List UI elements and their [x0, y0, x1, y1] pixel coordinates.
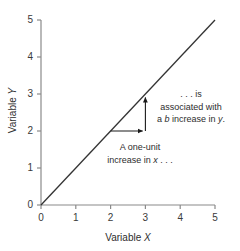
y-tick-label-4: 4 [19, 51, 33, 62]
x-increase-line2-suffix: . . . [158, 155, 173, 165]
y-increase-annotation: . . . is associated with a b increase in… [148, 88, 234, 126]
x-increase-line2: increase in x . . . [92, 154, 188, 167]
x-tick-label-5: 5 [205, 212, 225, 223]
y-axis-title: Variable Y [7, 61, 18, 161]
x-tick-label-0: 0 [31, 212, 51, 223]
y-tick-label-5: 5 [19, 14, 33, 25]
x-axis-title-symbol: X [144, 232, 151, 243]
x-increase-line2-prefix: increase in [107, 155, 153, 165]
x-axis-title: Variable X [41, 232, 215, 243]
x-increase-annotation: A one-unit increase in x . . . [92, 141, 188, 166]
x-tick-label-1: 1 [66, 212, 86, 223]
x-axis-ticks [41, 205, 215, 209]
y-increase-line3-suffix: . [223, 114, 226, 124]
y-axis-title-symbol: Y [7, 88, 18, 95]
y-increase-line2: associated with [148, 101, 234, 114]
y-tick-label-3: 3 [19, 88, 33, 99]
x-increase-line1: A one-unit [92, 141, 188, 154]
x-tick-label-2: 2 [101, 212, 121, 223]
scatter-regression-figure: 5 4 3 2 1 0 0 1 2 3 4 5 Variable X Varia… [0, 0, 240, 251]
x-axis-title-prefix: Variable [105, 232, 144, 243]
y-tick-label-1: 1 [19, 162, 33, 173]
y-tick-label-0: 0 [19, 199, 33, 210]
x-tick-label-3: 3 [135, 212, 155, 223]
y-increase-line3-mid: increase in [169, 114, 218, 124]
y-tick-label-2: 2 [19, 125, 33, 136]
y-increase-line3: a b increase in y. [148, 113, 234, 126]
x-tick-label-4: 4 [170, 212, 190, 223]
y-axis-title-prefix: Variable [7, 94, 18, 133]
y-increase-line1: . . . is [148, 88, 234, 101]
